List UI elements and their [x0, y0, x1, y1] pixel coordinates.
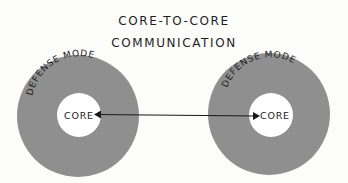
- left-core-label: CORE: [64, 110, 94, 121]
- right-core-label: CORE: [260, 110, 290, 121]
- left-node: DEFENSE MODE CORE: [17, 48, 139, 177]
- diagram-graphic: DEFENSE MODE CORE DEFENSE MODE CORE: [0, 0, 348, 183]
- right-node: DEFENSE MODE CORE: [208, 49, 330, 175]
- diagram-canvas: CORE-TO-CORE COMMUNICATION DEFENSE MODE …: [0, 0, 348, 183]
